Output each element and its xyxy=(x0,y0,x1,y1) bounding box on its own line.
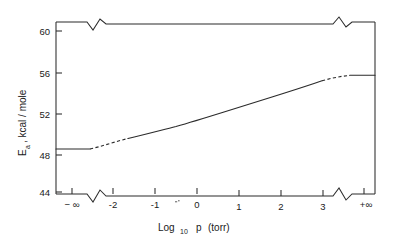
y-axis-tick-labels: 60 56 52 48 44 xyxy=(39,26,50,198)
y-axis-title-rest: , kcal / mole xyxy=(17,89,28,143)
scan-artifact-smudge xyxy=(175,200,180,202)
y-axis-title-var: E xyxy=(17,149,28,156)
y-tick-label-52: 52 xyxy=(39,109,50,120)
x-axis-tick-labels: − ∞ -2 -1 0 1 2 3 +∞ xyxy=(65,199,373,212)
x-axis-title-main: Log xyxy=(158,222,175,233)
x-axis-ticks xyxy=(72,188,364,196)
x-tick-label-3: 3 xyxy=(320,201,325,212)
y-tick-label-48: 48 xyxy=(39,150,50,161)
x-tick-label-pos-inf: +∞ xyxy=(360,199,373,210)
frame-top-border xyxy=(56,17,375,30)
y-tick-label-60: 60 xyxy=(39,26,50,37)
y-tick-label-44: 44 xyxy=(39,187,50,198)
y-tick-label-56: 56 xyxy=(39,68,50,79)
x-tick-label-neg1: -1 xyxy=(151,199,159,210)
y-axis-ticks xyxy=(56,31,62,192)
x-tick-label-neg-inf: − ∞ xyxy=(65,199,80,210)
x-axis-title: Log 10 p (torr) xyxy=(158,222,230,235)
x-tick-label-1: 1 xyxy=(236,201,241,212)
y-axis-title: E a , kcal / mole xyxy=(17,89,31,156)
x-axis-title-subscript: 10 xyxy=(180,228,188,235)
x-tick-label-2: 2 xyxy=(278,201,283,212)
frame-bottom-axis xyxy=(56,188,375,202)
x-axis-title-variable: p xyxy=(196,222,202,233)
x-tick-label-neg2: -2 xyxy=(109,199,117,210)
x-tick-label-0: 0 xyxy=(194,199,199,210)
data-curve-dashed-right xyxy=(322,75,350,80)
data-curve-dashed-left xyxy=(90,139,128,150)
data-curve-main xyxy=(128,81,322,139)
x-axis-title-unit: (torr) xyxy=(208,222,230,233)
chart-canvas: 60 56 52 48 44 − ∞ -2 -1 0 1 2 3 +∞ xyxy=(0,0,393,245)
y-axis-title-subscript: a xyxy=(24,145,31,149)
figure-container: 60 56 52 48 44 − ∞ -2 -1 0 1 2 3 +∞ xyxy=(0,0,393,245)
